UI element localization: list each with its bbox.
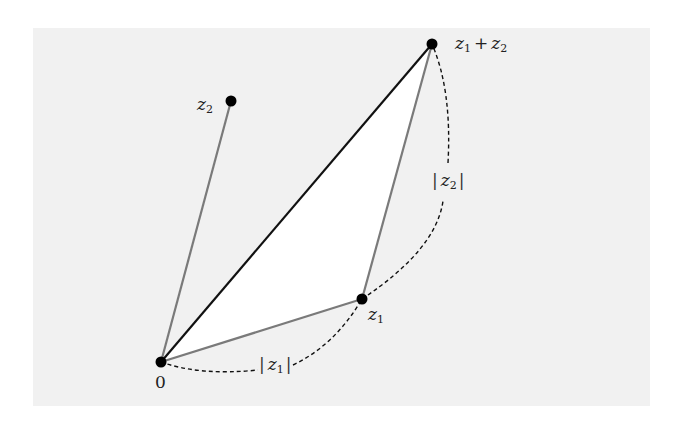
- mod-z1-sub: 1: [277, 363, 284, 376]
- mod-z1-bar-left: |: [259, 354, 265, 374]
- label-z1: z1: [368, 306, 384, 325]
- sum-sub1: 1: [464, 42, 471, 55]
- diagram-canvas: 0 z1 z2 z1+z2 |z1| |z2|: [0, 0, 673, 433]
- arc-z2-upper: [432, 44, 449, 163]
- mod-z2-bar-left: |: [432, 170, 438, 190]
- sum-var1: z: [455, 33, 464, 53]
- label-mod-z1: |z1|: [259, 356, 291, 375]
- mod-z1-var: z: [268, 354, 277, 374]
- z1-var: z: [368, 304, 377, 324]
- z2-var: z: [197, 94, 206, 114]
- sum-plus: +: [474, 33, 488, 53]
- sum-sub2: 2: [500, 42, 507, 55]
- label-z2: z2: [197, 96, 213, 115]
- point-sum: [427, 39, 438, 50]
- label-sum: z1+z2: [455, 35, 507, 54]
- origin-text: 0: [155, 372, 166, 392]
- arc-z1-left: [161, 362, 258, 372]
- z1-sub: 1: [377, 313, 384, 326]
- diagram-svg: [0, 0, 673, 433]
- mod-z2-bar-right: |: [459, 170, 465, 190]
- z2-sub: 2: [206, 103, 213, 116]
- mod-z1-bar-right: |: [286, 354, 292, 374]
- sum-var2: z: [491, 33, 500, 53]
- mod-z2-sub: 2: [450, 179, 457, 192]
- point-origin: [156, 357, 167, 368]
- label-mod-z2: |z2|: [432, 172, 464, 191]
- label-origin: 0: [155, 374, 166, 391]
- mod-z2-var: z: [441, 170, 450, 190]
- point-z1: [357, 294, 368, 305]
- point-z2: [226, 96, 237, 107]
